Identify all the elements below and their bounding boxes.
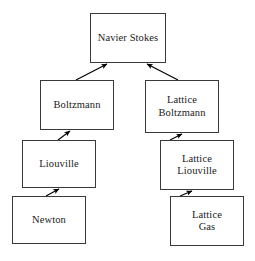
diagram-canvas: Navier Stokes Boltzmann Lattice Boltzman… <box>0 0 255 261</box>
node-label-liouville: Liouville <box>39 158 78 171</box>
node-lattice-boltzmann[interactable]: Lattice Boltzmann <box>145 80 219 133</box>
node-lattice-liouville[interactable]: Lattice Liouville <box>160 140 234 190</box>
node-label-lattice-gas: Lattice Gas <box>192 209 222 234</box>
edge-newton-to-liouville <box>46 189 59 196</box>
edge-liouville-to-boltzmann <box>58 131 70 140</box>
node-lattice-gas[interactable]: Lattice Gas <box>170 196 244 246</box>
node-label-lattice-liouville: Lattice Liouville <box>177 153 216 178</box>
node-newton[interactable]: Newton <box>12 196 86 244</box>
node-label-navier-stokes: Navier Stokes <box>98 32 159 45</box>
node-navier-stokes[interactable]: Navier Stokes <box>90 13 166 63</box>
node-label-newton: Newton <box>32 214 66 227</box>
edge-lattice-boltzmann-to-navier-stokes <box>147 64 178 80</box>
node-liouville[interactable]: Liouville <box>22 140 96 188</box>
node-label-lattice-boltzmann: Lattice Boltzmann <box>159 94 206 119</box>
node-boltzmann[interactable]: Boltzmann <box>40 80 114 130</box>
node-label-boltzmann: Boltzmann <box>54 99 101 112</box>
edge-boltzmann-to-navier-stokes <box>76 64 107 80</box>
